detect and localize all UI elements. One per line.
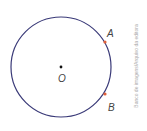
- point-b-label: B: [108, 102, 115, 113]
- circle-diagram: O A B: [0, 0, 147, 131]
- center-label: O: [58, 73, 66, 84]
- point-b: [103, 92, 106, 95]
- image-credit: Banco de imagens/Arquivo da editora: [133, 24, 139, 107]
- center-point: [60, 66, 63, 69]
- point-a: [103, 40, 106, 43]
- point-a-label: A: [106, 28, 114, 39]
